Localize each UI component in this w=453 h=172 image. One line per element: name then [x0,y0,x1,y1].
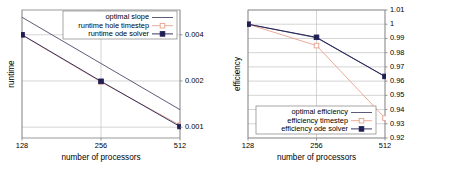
y-tick-label: 0.95 [390,90,404,99]
figure-two-panel-scaling: 0.0010.0020.004128256512number of proces… [0,0,453,172]
data-point-ode_solver [99,79,104,84]
y-tick-label: 0.96 [390,76,404,85]
legend-sample-marker-ode_solver [160,32,165,37]
x-axis-title: number of processors [277,153,356,162]
data-point-ode_solver [20,32,25,37]
y-tick-label: 0.002 [185,76,204,85]
legend-sample-marker-timestep [359,118,364,123]
y-tick-label: 0.93 [390,119,404,128]
data-point-ode_solver [383,74,388,79]
data-point-timestep [383,116,388,121]
x-tick-label: 256 [310,141,322,150]
data-point-ode_solver [178,124,183,129]
x-tick-label: 128 [242,141,254,150]
x-axis-title: number of processors [61,153,140,162]
y-tick-label: 0.98 [390,48,404,57]
y-tick-label: 0.004 [185,30,204,39]
data-point-ode_solver [314,35,319,40]
data-point-timestep [314,43,319,48]
legend-sample-marker-ode_solver [359,127,364,132]
y-tick-label: 0.97 [390,62,404,71]
y-axis-title: efficiency [233,56,242,91]
legend: optimal sloperuntime hole timestepruntim… [63,11,177,39]
data-point-ode_solver [246,22,251,27]
x-tick-label: 512 [379,141,391,150]
x-tick-label: 512 [174,141,186,150]
legend: optimal efficiencyefficiency timestepeff… [256,106,376,134]
x-tick-label: 256 [95,141,107,150]
y-axis-title: runtime [7,60,16,88]
chart-panel-runtime: 0.0010.0020.004128256512number of proces… [0,0,226,172]
y-tick-label: 0.92 [390,133,404,142]
y-tick-label: 1 [390,19,394,28]
y-tick-label: 0.001 [185,122,204,131]
legend-sample-marker-timestep [160,23,165,28]
y-tick-label: 0.99 [390,33,404,42]
y-tick-label: 0.94 [390,105,404,114]
y-tick-label: 1.01 [390,5,404,14]
chart-panel-efficiency: 0.920.930.940.950.960.970.980.9911.01128… [226,0,453,172]
legend-label-ode_solver: efficiency ode solver [281,124,348,133]
x-tick-label: 128 [16,141,28,150]
legend-label-ode_solver: runtime ode solver [88,29,149,38]
